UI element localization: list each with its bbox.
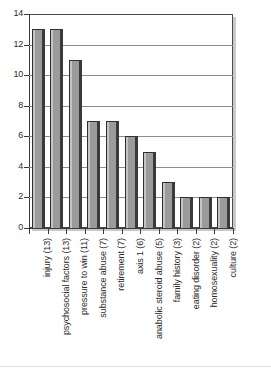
bar [143, 152, 156, 228]
x-axis-tick [177, 229, 178, 234]
bar-side-face [97, 121, 100, 228]
footer-rule [0, 366, 271, 367]
bar [199, 197, 212, 228]
x-axis-tick [233, 229, 234, 234]
y-axis-tick [24, 14, 29, 15]
bar-highlight [107, 122, 109, 228]
x-axis-tick-label: axis 1 (6) [135, 238, 145, 274]
bar-highlight [144, 153, 146, 228]
y-axis-tick-label: 2 [1, 192, 23, 201]
x-axis-line [29, 228, 234, 229]
bar-highlight [163, 183, 165, 228]
x-axis-tick [85, 229, 86, 234]
x-axis-tick-label: pressure to win (11) [79, 238, 89, 315]
y-axis-tick [24, 167, 29, 168]
bar-highlight [70, 61, 72, 228]
y-axis-tick-label: 10 [1, 70, 23, 79]
bar-side-face [42, 29, 45, 228]
x-axis-tick-label: psychosocial factors (13) [61, 238, 71, 335]
bar-side-face [135, 136, 138, 228]
x-axis-tick-label: family history (3) [172, 238, 182, 302]
bar-side-face [227, 197, 230, 228]
y-axis-tick-label: 14 [1, 9, 23, 18]
bar [217, 197, 230, 228]
bar [162, 182, 175, 228]
bar-highlight [88, 122, 90, 228]
bar-side-face [172, 182, 175, 228]
x-axis-tick-label: injury (13) [42, 238, 52, 277]
x-axis-tick [122, 229, 123, 234]
y-axis-tick [24, 45, 29, 46]
y-axis-tick [24, 106, 29, 107]
y-axis-tick-label: 0 [1, 223, 23, 232]
x-axis-tick-label: homosexuality (2) [209, 238, 219, 307]
bar-side-face [209, 197, 212, 228]
bar [106, 121, 119, 228]
bar-chart: 02468101214 injury (13)psychosocial fact… [0, 0, 271, 378]
y-axis-tick [24, 197, 29, 198]
y-axis-tick [24, 75, 29, 76]
x-axis-tick [196, 229, 197, 234]
x-axis-tick [103, 229, 104, 234]
y-axis-tick-label: 4 [1, 162, 23, 171]
bar-side-face [79, 60, 82, 228]
x-axis-tick-label: culture (2) [228, 238, 238, 277]
y-axis-tick-label: 12 [1, 40, 23, 49]
bar-side-face [190, 197, 193, 228]
y-axis-tick-label: 6 [1, 131, 23, 140]
bar-side-face [60, 29, 63, 228]
bar [50, 29, 63, 228]
y-axis-tick [24, 136, 29, 137]
bar-side-face [116, 121, 119, 228]
x-axis-tick-label: eating disorder (2) [191, 238, 201, 309]
x-axis-tick [159, 229, 160, 234]
bar-highlight [181, 198, 183, 228]
x-axis-tick-label: retirement (7) [116, 238, 126, 291]
bar-highlight [126, 137, 128, 228]
x-axis-tick [29, 229, 30, 234]
bar-side-face [153, 152, 156, 228]
x-axis-tick [66, 229, 67, 234]
x-axis-tick-label: substance abuse (7) [98, 238, 108, 318]
bar [125, 136, 138, 228]
x-axis-tick [140, 229, 141, 234]
bar [69, 60, 82, 228]
x-axis-tick-label: anabolic steroid abuse (5) [154, 238, 164, 339]
bar-highlight [33, 30, 35, 228]
x-axis-tick [48, 229, 49, 234]
bar-highlight [218, 198, 220, 228]
bar [180, 197, 193, 228]
bar-highlight [200, 198, 202, 228]
bar [87, 121, 100, 228]
x-axis-tick [214, 229, 215, 234]
y-axis-tick-label: 8 [1, 101, 23, 110]
bar-highlight [51, 30, 53, 228]
bar [32, 29, 45, 228]
